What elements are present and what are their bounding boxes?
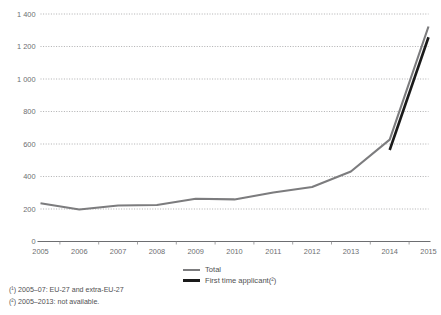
x-axis-tick-label: 2010 [226, 247, 242, 256]
x-axis-tick-label: 2013 [343, 247, 359, 256]
legend-swatch-total-icon [183, 269, 200, 271]
footnote-2: (²) 2005–2013: not available. [9, 297, 309, 309]
series-line-first-time-applicant [390, 37, 429, 150]
plot-area: 02004006008001 0001 2001 400 20052006200… [0, 0, 441, 262]
chart-container: 02004006008001 0001 2001 400 20052006200… [0, 0, 441, 315]
gridlines-group [41, 14, 429, 209]
x-axis-tick-label: 2015 [420, 247, 436, 256]
data-series-group [41, 27, 429, 210]
y-axis-tick-labels: 02004006008001 0001 2001 400 [17, 10, 36, 247]
x-axis-group [38, 242, 431, 245]
legend-item-total: Total [183, 264, 353, 275]
legend-swatch-first-time-applicant-icon [183, 279, 200, 282]
y-axis-tick-label: 400 [23, 172, 35, 181]
line-chart-svg: 02004006008001 0001 2001 400 20052006200… [0, 0, 441, 262]
y-axis-tick-label: 1 000 [17, 75, 36, 84]
y-axis-tick-label: 800 [23, 107, 35, 116]
footnotes: (¹) 2005–07: EU-27 and extra-EU-27 (²) 2… [9, 285, 309, 308]
x-axis-tick-label: 2009 [187, 247, 203, 256]
legend-label-total: Total [205, 264, 221, 275]
x-axis-tick-labels: 2005200620072008200920102011201220132014… [32, 247, 436, 256]
x-axis-tick-label: 2006 [71, 247, 87, 256]
x-axis-tick-label: 2008 [149, 247, 165, 256]
y-axis-tick-label: 600 [23, 140, 35, 149]
x-axis-tick-label: 2014 [381, 247, 397, 256]
chart-legend: Total First time applicant(²) [183, 264, 353, 286]
y-axis-tick-label: 1 200 [17, 42, 36, 51]
series-line-total [41, 27, 429, 210]
footnote-1: (¹) 2005–07: EU-27 and extra-EU-27 [9, 285, 309, 297]
x-axis-tick-label: 2011 [265, 247, 281, 256]
y-axis-tick-label: 1 400 [17, 10, 36, 19]
x-axis-tick-label: 2007 [110, 247, 126, 256]
y-axis-tick-label: 0 [31, 237, 35, 246]
x-axis-tick-label: 2012 [304, 247, 320, 256]
x-axis-tick-label: 2005 [32, 247, 48, 256]
y-axis-tick-label: 200 [23, 205, 35, 214]
